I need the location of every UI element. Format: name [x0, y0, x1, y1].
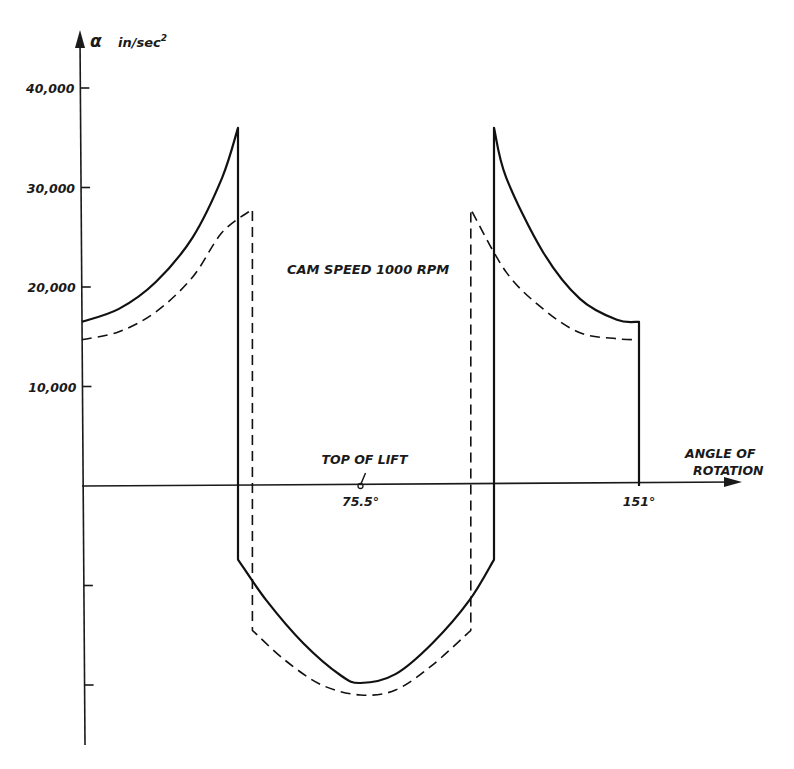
axes — [80, 38, 735, 745]
x-axis-label-line2: ROTATION — [693, 463, 764, 478]
y-axis-unit-sup: 2 — [161, 33, 167, 43]
series — [82, 128, 639, 695]
x-axis-arrow-icon — [724, 477, 742, 487]
x-axis-label-line1: ANGLE OF — [684, 446, 756, 461]
chart-title: CAM SPEED 1000 RPM — [287, 262, 449, 277]
y-axis-symbol: α — [90, 31, 102, 51]
x-axis — [82, 482, 735, 486]
top-of-lift-label: TOP OF LIFT — [322, 452, 409, 467]
y-tick-label: 40,000 — [25, 81, 75, 96]
x-annotations: 75.5°TOP OF LIFT151° — [322, 452, 656, 509]
y-tick-label: 20,000 — [28, 280, 77, 295]
y-tick-label: 30,000 — [27, 181, 76, 196]
x-annotation-label: 151° — [623, 494, 655, 509]
y-axis — [80, 38, 85, 745]
y-axis-arrow-icon — [75, 30, 85, 48]
series-solid-line — [82, 128, 639, 683]
y-tick-label: 10,000 — [28, 380, 77, 395]
y-axis-unit: in/sec2 — [118, 33, 167, 50]
acceleration-chart: 40,00030,00020,00010,000 α in/sec2 CAM S… — [0, 0, 794, 769]
y-axis-unit-text: in/sec — [118, 35, 161, 50]
x-annotation-label: 75.5° — [342, 494, 379, 509]
